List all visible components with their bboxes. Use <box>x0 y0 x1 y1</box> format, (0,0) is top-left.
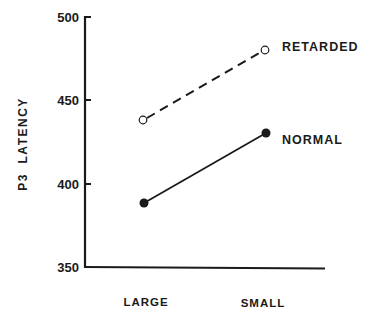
series-line-normal <box>144 133 266 203</box>
data-point-retarded-small <box>261 46 269 54</box>
data-point-normal-large <box>140 199 149 208</box>
series-line-retarded <box>147 52 261 118</box>
y-tick-label: 350 <box>57 260 79 275</box>
y-tick-label: 500 <box>57 10 79 25</box>
series-label-normal: NORMAL <box>282 133 343 147</box>
y-axis-title: P3 LATENCY <box>16 97 30 191</box>
chart: 500 450 400 350 P3 LATENCY LARGE SMALL R… <box>0 0 371 322</box>
y-tick-label: 450 <box>57 93 79 108</box>
y-tick-label: 400 <box>57 177 79 192</box>
x-axis <box>84 267 325 269</box>
series-label-retarded: RETARDED <box>282 40 359 54</box>
x-category-label: LARGE <box>123 296 168 308</box>
data-point-normal-small <box>262 129 271 138</box>
data-point-retarded-large <box>139 116 147 124</box>
x-category-label: SMALL <box>241 297 286 309</box>
